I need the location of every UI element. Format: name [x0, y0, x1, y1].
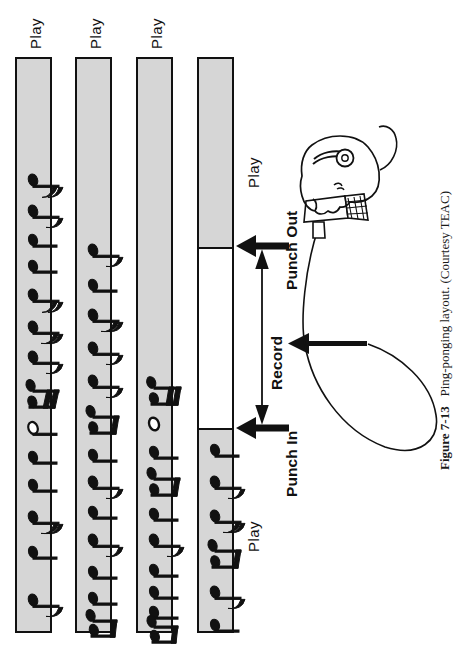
track-2-play-label: Play: [87, 18, 104, 49]
punch-out-label: Punch Out: [283, 211, 301, 290]
punch-in-arrow: [236, 417, 289, 439]
figure-caption-text: Ping-ponging layout. (Courtesy TEAC): [437, 191, 452, 397]
track-4-play-label-bottom: Play: [245, 521, 262, 552]
microphone-icon: [304, 194, 368, 238]
record-span-arrow: [257, 252, 268, 422]
track-1-play-label: Play: [27, 18, 44, 49]
track-bar-2: [75, 57, 112, 633]
track-4-segment-record: [199, 247, 232, 430]
track-bar-3: [136, 57, 173, 633]
figure-caption: Figure 7-13 Ping-ponging layout. (Courte…: [437, 191, 453, 470]
punch-out-arrow: [236, 235, 289, 257]
track-4-segment-play-top: [199, 59, 232, 247]
track-bar-4: [197, 57, 234, 633]
mic-input-arrow: [288, 333, 367, 354]
track-4-segment-play-bottom: [199, 430, 232, 631]
track-3-play-label: Play: [148, 18, 165, 49]
mic-cable-loop: [303, 229, 436, 450]
punch-in-label: Punch In: [283, 431, 301, 497]
track-bar-1: [15, 57, 52, 633]
figure-canvas: Play Play Play Play Play Punch Out Recor…: [0, 0, 463, 650]
head-with-headphones-icon: [301, 126, 397, 214]
figure-number: Figure 7-13: [437, 406, 452, 470]
track-4-play-label-top: Play: [245, 157, 262, 188]
record-label: Record: [268, 336, 286, 390]
